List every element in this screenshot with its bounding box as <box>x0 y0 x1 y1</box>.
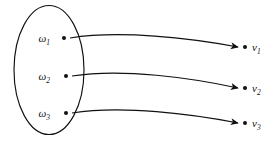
omega-2-subscript: 2 <box>46 76 50 85</box>
omega-2-dot <box>64 74 68 78</box>
nu-2-dot <box>243 86 247 90</box>
arrow-omega1-to-nu1 <box>70 35 238 47</box>
omega-1-label: ω1 <box>38 32 50 47</box>
nu-1-dot <box>243 45 247 49</box>
omega-3-label: ω3 <box>38 107 50 122</box>
nu-3-label: ν3 <box>252 117 261 132</box>
nu-2-label: ν2 <box>252 82 261 97</box>
omega-1-dot <box>62 36 66 40</box>
mapping-diagram: ω1 ω2 ω3 ν1 ν2 ν3 <box>0 0 277 142</box>
arrow-omega3-to-nu3 <box>72 110 238 123</box>
nu-2-subscript: 2 <box>257 88 261 97</box>
nu-1-subscript: 1 <box>257 47 261 56</box>
arrow-omega2-to-nu2 <box>72 73 238 88</box>
nu-3-subscript: 3 <box>256 123 261 132</box>
omega-3-dot <box>64 111 68 115</box>
omega-2-label: ω2 <box>38 70 50 85</box>
omega-3-subscript: 3 <box>45 113 50 122</box>
nu-1-label: ν1 <box>252 41 261 56</box>
omega-1-subscript: 1 <box>46 38 50 47</box>
nu-3-dot <box>243 121 247 125</box>
diagram-canvas: ω1 ω2 ω3 ν1 ν2 ν3 <box>0 0 277 142</box>
